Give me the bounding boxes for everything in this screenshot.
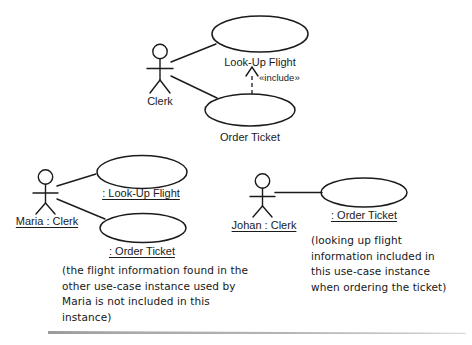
usecase-look-up-flight-label: Look-Up Flight [224,56,296,68]
usecase-instance-order-ticket-maria [100,214,186,243]
include-arrowhead [246,67,258,76]
actor-clerk-head [153,44,167,58]
usecase-look-up-flight [212,16,308,52]
use-case-diagram-canvas: Clerk Look-Up Flight Order Ticket «inclu… [0,0,472,345]
usecase-order-ticket-label: Order Ticket [220,131,280,143]
usecase-instance-order-ticket-johan-label: : Order Ticket [331,209,397,221]
actor-maria-clerk-label: Maria : Clerk [16,215,78,227]
actor-johan-head [255,174,269,188]
actor-maria-clerk [33,170,58,214]
actor-clerk-leg-right [160,80,170,93]
usecase-instance-look-up-flight-label: : Look-Up Flight [102,187,180,199]
usecase-order-ticket [205,94,295,126]
actor-maria-leg-left [36,203,46,214]
note-maria-instance: (the flight information found in the oth… [62,263,277,325]
actor-johan-clerk-label: Johan : Clerk [232,219,297,231]
usecase-instance-order-ticket-johan [321,178,407,207]
actor-maria-head [38,170,52,184]
include-dependency [246,67,258,94]
usecase-instance-look-up-flight [97,156,187,189]
actor-clerk [147,44,173,93]
association-maria-lookup [57,174,96,186]
actor-maria-leg-right [46,203,56,214]
note-johan-instance: (looking up flight information included … [311,233,471,295]
actor-clerk-label: Clerk [147,95,173,107]
include-dependency-label: «include» [259,73,300,83]
association-clerk-order [171,76,217,98]
actor-johan-leg-right [263,206,273,217]
actor-johan-leg-left [253,206,263,217]
actor-clerk-leg-left [150,80,160,93]
actor-johan-clerk [250,174,275,217]
usecase-instance-order-ticket-maria-label: : Order Ticket [109,245,175,257]
association-clerk-lookup [171,44,216,62]
